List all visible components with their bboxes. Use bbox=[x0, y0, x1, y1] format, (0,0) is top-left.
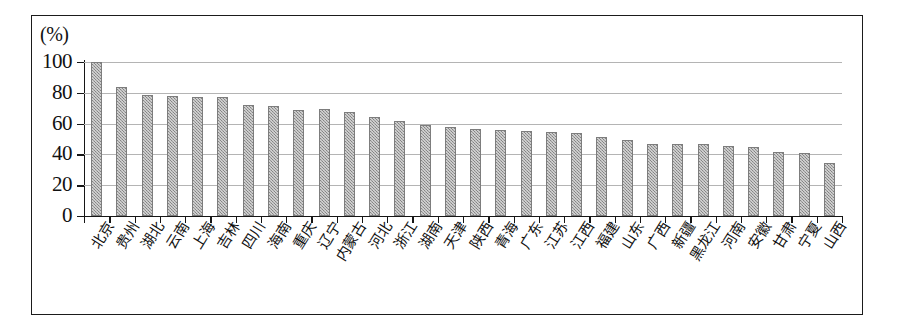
bar bbox=[622, 140, 633, 216]
bar bbox=[369, 117, 380, 216]
x-axis-tick bbox=[286, 216, 287, 223]
bar bbox=[116, 87, 127, 216]
bar bbox=[521, 131, 532, 216]
bar bbox=[698, 144, 709, 216]
x-axis-tick bbox=[665, 216, 666, 223]
x-axis-tick bbox=[640, 216, 641, 223]
y-axis-tick-label: 40 bbox=[26, 143, 72, 164]
y-axis-tick-label: 0 bbox=[26, 205, 72, 226]
bar bbox=[167, 96, 178, 216]
bar bbox=[217, 97, 228, 216]
bar bbox=[773, 152, 784, 216]
y-axis-tick bbox=[77, 154, 84, 155]
bar bbox=[748, 147, 759, 216]
x-axis-tick bbox=[564, 216, 565, 223]
x-axis-tick bbox=[438, 216, 439, 223]
x-axis-tick bbox=[488, 216, 489, 223]
y-axis-tick-label: 60 bbox=[26, 113, 72, 134]
y-axis-tick-label: 100 bbox=[26, 51, 72, 72]
x-axis-tick bbox=[109, 216, 110, 223]
x-axis-tick bbox=[135, 216, 136, 223]
x-axis-tick bbox=[261, 216, 262, 223]
y-axis-tick bbox=[77, 93, 84, 94]
bar bbox=[799, 153, 810, 216]
x-axis-tick bbox=[210, 216, 211, 223]
y-axis-tick-label: 80 bbox=[26, 82, 72, 103]
y-axis-tick bbox=[77, 62, 84, 63]
x-axis-tick bbox=[766, 216, 767, 223]
bar bbox=[596, 137, 607, 216]
bar bbox=[672, 144, 683, 216]
x-axis-tick bbox=[236, 216, 237, 223]
bar bbox=[420, 125, 431, 216]
bar bbox=[91, 62, 102, 216]
x-axis-tick bbox=[514, 216, 515, 223]
bar bbox=[824, 163, 835, 216]
x-axis-tick bbox=[412, 216, 413, 223]
x-axis-tick bbox=[387, 216, 388, 223]
gridline bbox=[84, 93, 842, 94]
bar bbox=[344, 112, 355, 216]
x-axis-tick bbox=[463, 216, 464, 223]
x-axis-tick bbox=[842, 216, 843, 223]
bar bbox=[268, 106, 279, 216]
bar bbox=[142, 95, 153, 216]
bar bbox=[243, 105, 254, 216]
x-axis-tick bbox=[84, 216, 85, 223]
x-axis-tick bbox=[716, 216, 717, 223]
bar bbox=[546, 132, 557, 216]
x-axis-tick bbox=[160, 216, 161, 223]
plot-area bbox=[84, 62, 842, 216]
y-axis-tick bbox=[77, 124, 84, 125]
bar bbox=[445, 127, 456, 216]
bar bbox=[319, 109, 330, 216]
x-axis-tick bbox=[690, 216, 691, 223]
chart-figure: (%) 020406080100 北京贵州湖北云南上海吉林四川海南重庆辽宁内蒙古… bbox=[0, 0, 898, 330]
y-axis-tick bbox=[77, 216, 84, 217]
bar bbox=[293, 110, 304, 216]
x-axis-tick bbox=[362, 216, 363, 223]
x-axis-tick bbox=[791, 216, 792, 223]
bar bbox=[571, 133, 582, 216]
x-axis-tick bbox=[311, 216, 312, 223]
x-axis-tick bbox=[741, 216, 742, 223]
y-axis-tick-label: 20 bbox=[26, 174, 72, 195]
bar bbox=[723, 146, 734, 216]
x-axis-tick bbox=[539, 216, 540, 223]
x-axis-tick bbox=[817, 216, 818, 223]
x-axis-tick bbox=[337, 216, 338, 223]
bar bbox=[470, 129, 481, 216]
x-axis-tick bbox=[589, 216, 590, 223]
bar bbox=[192, 97, 203, 216]
bar bbox=[495, 130, 506, 216]
gridline bbox=[84, 62, 842, 63]
bar bbox=[394, 121, 405, 216]
x-axis-tick bbox=[615, 216, 616, 223]
bar bbox=[647, 144, 658, 216]
x-axis-tick bbox=[185, 216, 186, 223]
y-axis-unit-label: (%) bbox=[40, 24, 68, 44]
y-axis-tick bbox=[77, 185, 84, 186]
